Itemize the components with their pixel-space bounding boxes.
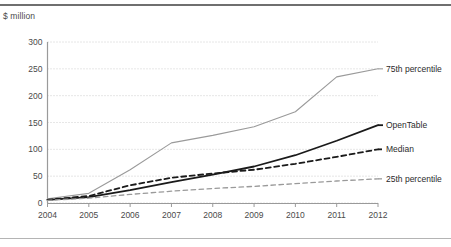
series-label: 75th percentile: [386, 64, 442, 74]
x-tick-label: 2004: [38, 210, 57, 220]
series-line: [48, 69, 379, 199]
series-label: Median: [386, 144, 414, 154]
x-tick-label: 2012: [369, 210, 388, 220]
x-tick-label: 2005: [79, 210, 98, 220]
y-tick-label: 200: [28, 91, 42, 101]
series-labels-group: 75th percentileOpenTableMedian25th perce…: [386, 64, 442, 184]
gridlines-group: [48, 42, 379, 203]
y-tick-label: 250: [28, 64, 42, 74]
series-label: 25th percentile: [386, 174, 442, 184]
series-label: OpenTable: [386, 120, 427, 130]
x-tick-label: 2011: [328, 210, 347, 220]
x-tick-labels-group: 200420052006200720082009201020112012: [38, 210, 388, 220]
y-tick-label: 300: [28, 37, 42, 47]
x-tick-label: 2009: [245, 210, 264, 220]
chart-figure: $ million 050100150200250300 20042005200…: [0, 0, 451, 247]
y-tick-label: 150: [28, 118, 42, 128]
y-tick-label: 0: [38, 198, 43, 208]
line-chart-plot: 050100150200250300 200420052006200720082…: [0, 0, 451, 247]
x-tick-label: 2007: [162, 210, 181, 220]
x-tick-label: 2006: [121, 210, 140, 220]
x-tick-label: 2008: [203, 210, 222, 220]
x-tick-label: 2010: [286, 210, 305, 220]
y-tick-label: 100: [28, 144, 42, 154]
series-line: [48, 179, 379, 200]
y-tick-labels-group: 050100150200250300: [28, 37, 42, 208]
series-lines-group: [48, 69, 384, 200]
y-tick-label: 50: [33, 171, 43, 181]
